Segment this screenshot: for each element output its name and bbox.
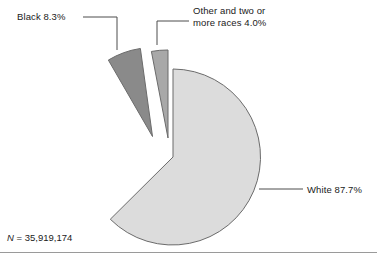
slice-label-other-line2: more races 4.0% (193, 17, 266, 28)
sample-size-symbol: N (7, 232, 14, 243)
pie-chart-canvas (0, 0, 377, 263)
sample-size-equals: = (14, 232, 25, 243)
pie-slice-other (151, 50, 168, 138)
sample-size-label: N = 35,919,174 (7, 232, 72, 243)
slice-label-other-line1: Other and two or (193, 5, 265, 16)
leader-line-black (83, 17, 117, 50)
slice-label-black: Black 8.3% (17, 11, 66, 23)
sample-size-value: 35,919,174 (25, 232, 73, 243)
pie-chart-figure: Black 8.3% Other and two ormore races 4.… (0, 0, 377, 263)
pie-slice-black (108, 48, 152, 136)
slice-label-other: Other and two ormore races 4.0% (193, 5, 313, 29)
leader-line-other (157, 21, 189, 45)
slice-label-white: White 87.7% (307, 184, 362, 196)
